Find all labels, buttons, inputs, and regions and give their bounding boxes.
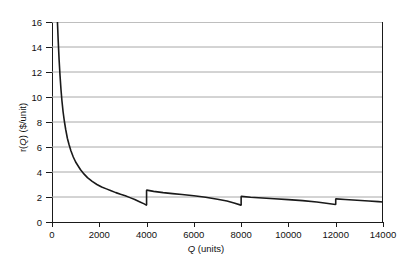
x-tick <box>336 222 337 227</box>
y-tick-label: 14 <box>0 42 42 53</box>
x-tick <box>241 222 242 227</box>
x-axis-title: Q (units) <box>0 243 412 254</box>
x-tick-label: 6000 <box>183 229 204 240</box>
y-tick <box>46 47 52 48</box>
y-tick <box>46 147 52 148</box>
y-tick-label: 2 <box>0 192 42 203</box>
x-axis-line <box>52 222 384 223</box>
x-tick-label: 0 <box>49 229 54 240</box>
curve-segment <box>57 22 146 205</box>
x-tick <box>288 222 289 227</box>
data-curve <box>57 22 383 205</box>
plot-svg <box>52 22 383 222</box>
x-tick-label: 2000 <box>89 229 110 240</box>
gridlines <box>52 22 383 222</box>
curve-segment <box>336 199 383 202</box>
chart-container: r(Q) ($/unit) 0246810121416 020004000600… <box>0 0 412 266</box>
y-tick-label: 10 <box>0 92 42 103</box>
x-tick <box>383 222 384 227</box>
curve-segment <box>147 190 241 205</box>
x-tick-label: 10000 <box>275 229 301 240</box>
x-tick <box>99 222 100 227</box>
y-tick <box>46 22 52 23</box>
y-tick-label: 0 <box>0 217 42 228</box>
y-tick-label: 8 <box>0 117 42 128</box>
x-axis-title-suffix: (units) <box>195 243 224 254</box>
y-tick <box>46 172 52 173</box>
y-tick-label: 12 <box>0 67 42 78</box>
x-tick <box>52 222 53 227</box>
x-tick-label: 12000 <box>322 229 348 240</box>
y-tick <box>46 97 52 98</box>
y-tick <box>46 197 52 198</box>
y-tick <box>46 122 52 123</box>
curve-segment <box>241 196 335 204</box>
x-tick-label: 14000 <box>370 229 396 240</box>
x-tick-label: 8000 <box>231 229 252 240</box>
y-tick-label: 4 <box>0 167 42 178</box>
x-tick <box>147 222 148 227</box>
x-tick <box>194 222 195 227</box>
y-tick-label: 6 <box>0 142 42 153</box>
y-tick <box>46 72 52 73</box>
y-tick-label: 16 <box>0 17 42 28</box>
x-tick-label: 4000 <box>136 229 157 240</box>
plot-area <box>52 22 383 222</box>
